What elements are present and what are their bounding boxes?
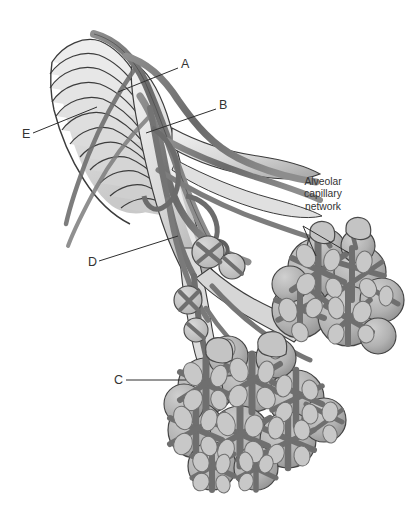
callout-line-1: Alveolar bbox=[286, 176, 360, 188]
alveolar-sac-cluster-lower bbox=[164, 332, 346, 495]
callout-alveolar-capillary-network: Alveolar capillary network bbox=[286, 176, 360, 213]
label-E: E bbox=[22, 128, 30, 141]
figure-canvas: A B E D C Alveolar capillary network bbox=[0, 0, 406, 524]
label-B: B bbox=[219, 99, 227, 112]
label-C: C bbox=[114, 374, 123, 387]
leader-D bbox=[99, 236, 178, 261]
label-A: A bbox=[181, 58, 189, 71]
label-D: D bbox=[88, 256, 97, 269]
callout-line-3: network bbox=[286, 201, 360, 213]
callout-line-2: capillary bbox=[286, 188, 360, 200]
alveolar-sac-cluster-upper bbox=[272, 217, 404, 354]
anatomy-illustration bbox=[0, 0, 406, 524]
